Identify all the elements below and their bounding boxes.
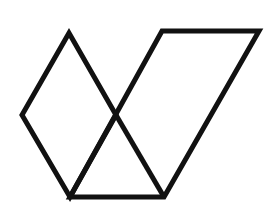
geometric-figure bbox=[0, 0, 274, 214]
